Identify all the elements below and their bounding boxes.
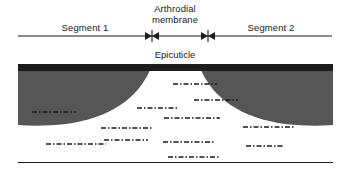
arthrodial-membrane-label-line1: Arthrodial [154,3,196,14]
base-rule [18,162,333,163]
cuticle-cross-section: Exocuticle Exocuticle Endocuticle [18,64,333,163]
cross-section-graphic [18,64,333,163]
exocuticle-right-label: Exocuticle [251,150,297,161]
epicuticle-label: Epicuticle [120,49,230,60]
exocuticle-left-label: Exocuticle [46,150,92,161]
epicuticle-layer [18,64,333,71]
arthrodial-membrane-label-line2: membrane [152,14,198,25]
cuticle-diagram: Segment 1 Arthrodial membrane Segment 2 … [0,0,350,174]
arthrodial-membrane-label: Arthrodial membrane [135,3,215,25]
segment-1-label: Segment 1 [44,22,126,33]
double-arrow-marker-right [201,30,215,42]
segment-2-label: Segment 2 [230,22,312,33]
double-arrow-marker-left [145,30,159,42]
